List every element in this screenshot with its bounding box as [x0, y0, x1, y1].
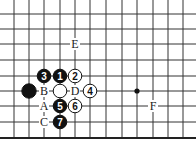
- move-number: 1: [57, 71, 63, 82]
- white-stone: [53, 84, 67, 98]
- move-number: 4: [87, 86, 93, 97]
- star-point-icon: [134, 88, 139, 93]
- board-letter: A: [40, 99, 49, 113]
- board-stones: 3124567: [22, 69, 97, 129]
- board-letters: EBDACF: [39, 37, 158, 129]
- black-stone: [22, 84, 36, 98]
- go-board: EBDACF 3124567: [0, 0, 196, 146]
- board-letter: D: [71, 84, 80, 98]
- move-number: 7: [57, 117, 63, 128]
- board-letter: C: [40, 115, 48, 129]
- move-number: 6: [72, 101, 78, 112]
- board-letter: B: [40, 84, 48, 98]
- move-number: 3: [41, 71, 47, 82]
- move-number: 2: [72, 71, 78, 82]
- board-letter: F: [150, 99, 157, 113]
- move-number: 5: [57, 101, 63, 112]
- board-grid: [0, 0, 196, 138]
- star-points: [134, 88, 139, 93]
- board-letter: E: [71, 37, 78, 51]
